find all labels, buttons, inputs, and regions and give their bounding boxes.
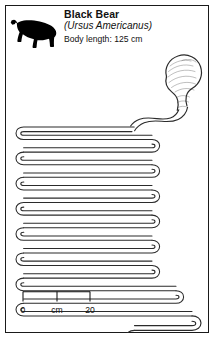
page-title: Black Bear [64,8,152,20]
species-titles: Black Bear (Ursus Americanus) Body lengt… [64,6,152,45]
card-header: Black Bear (Ursus Americanus) Body lengt… [6,6,202,52]
scientific-name: (Ursus Americanus) [64,20,152,33]
scale-tick-end: 20 [85,305,95,315]
body-length-text: Body length: 125 cm [64,33,152,45]
scale-bar: 0 cm 20 [14,288,110,318]
stomach-shape [166,55,202,110]
scale-unit-label: cm [51,305,62,315]
large-intestine-colon [126,316,202,333]
species-diagram-card: Black Bear (Ursus Americanus) Body lengt… [0,0,215,339]
duodenum-connector [131,107,188,131]
scale-tick-start: 0 [21,305,26,315]
black-bear-silhouette-icon [6,10,60,52]
scale-bar-rule [23,292,90,302]
